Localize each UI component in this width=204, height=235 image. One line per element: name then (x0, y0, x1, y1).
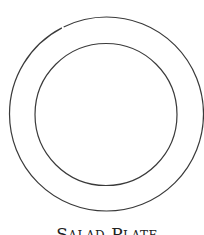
plate-caption: Salad Plate (0, 224, 204, 235)
outer-rim-circle (10, 17, 204, 211)
plate-drawing (0, 0, 204, 235)
inner-well-circle (35, 44, 177, 186)
salad-plate-diagram: Salad Plate (0, 0, 204, 235)
